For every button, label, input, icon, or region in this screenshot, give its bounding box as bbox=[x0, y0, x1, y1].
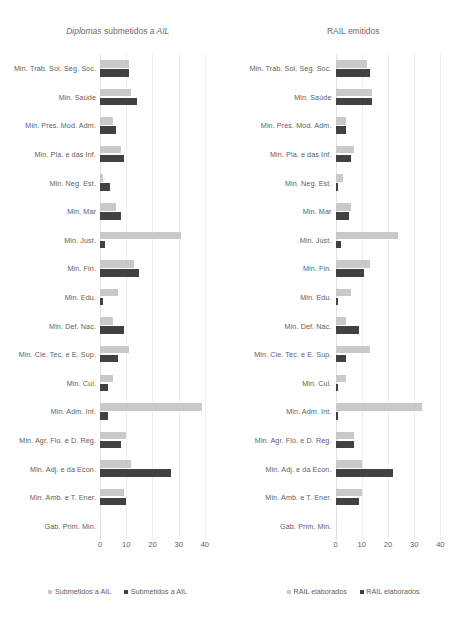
bar-light[interactable] bbox=[100, 375, 113, 383]
bar-light[interactable] bbox=[336, 518, 337, 526]
category-label: Min. Edu. bbox=[300, 293, 331, 302]
bar-light[interactable] bbox=[336, 232, 399, 240]
bar-dark[interactable] bbox=[336, 412, 339, 420]
legend-item[interactable]: Submetidos a AIL bbox=[48, 587, 111, 596]
bar-dark[interactable] bbox=[336, 126, 346, 134]
bar-dark[interactable] bbox=[336, 69, 370, 77]
bar-light[interactable] bbox=[100, 289, 118, 297]
bar-dark[interactable] bbox=[100, 355, 118, 363]
bar-dark[interactable] bbox=[100, 183, 110, 191]
bar-light[interactable] bbox=[336, 375, 346, 383]
bar-row: Min. Adj. e da Econ. bbox=[236, 454, 471, 483]
bar-dark[interactable] bbox=[100, 98, 137, 106]
x-tick-30: 30 bbox=[410, 540, 418, 549]
bar-light[interactable] bbox=[100, 146, 121, 154]
bar-light[interactable] bbox=[100, 346, 129, 354]
bar-light[interactable] bbox=[336, 174, 344, 182]
bar-dark[interactable] bbox=[336, 298, 339, 306]
legend-item[interactable]: RAIL elaborados bbox=[287, 587, 347, 596]
bar-row: Min. Fin. bbox=[0, 254, 236, 283]
bar-light[interactable] bbox=[100, 317, 113, 325]
bar-dark[interactable] bbox=[336, 355, 346, 363]
legend-item[interactable]: RAIL elaborados bbox=[360, 587, 420, 596]
bar-dark[interactable] bbox=[336, 384, 339, 392]
bar-light[interactable] bbox=[100, 89, 131, 97]
plot-area-right: Min. Trab. Sol. Seg. Soc.Min. SaúdeMin. … bbox=[236, 54, 471, 540]
bar-dark[interactable] bbox=[100, 498, 126, 506]
category-label: Min. Pres. Mod. Adm. bbox=[261, 121, 332, 130]
bar-light[interactable] bbox=[100, 432, 126, 440]
bar-dark[interactable] bbox=[100, 126, 116, 134]
bar-row: Min. Adm. Int. bbox=[236, 397, 471, 426]
bar-light[interactable] bbox=[336, 317, 346, 325]
category-label: Min. Pla. e das Inf. bbox=[270, 150, 332, 159]
bar-dark[interactable] bbox=[100, 298, 103, 306]
bar-dark[interactable] bbox=[100, 212, 121, 220]
bar-group bbox=[100, 197, 121, 226]
bar-group bbox=[100, 311, 124, 340]
legend-item[interactable]: Submetidos a AIL bbox=[124, 587, 187, 596]
bar-light[interactable] bbox=[336, 403, 423, 411]
bar-light[interactable] bbox=[336, 460, 362, 468]
bar-light[interactable] bbox=[100, 518, 101, 526]
bar-light[interactable] bbox=[336, 346, 370, 354]
bar-light[interactable] bbox=[336, 203, 352, 211]
bar-light[interactable] bbox=[336, 117, 346, 125]
bar-row: Min. Fin. bbox=[236, 254, 471, 283]
bar-light[interactable] bbox=[336, 89, 373, 97]
legend-right: RAIL elaboradosRAIL elaborados bbox=[236, 587, 471, 596]
bar-light[interactable] bbox=[100, 203, 116, 211]
bar-dark[interactable] bbox=[100, 469, 171, 477]
bar-dark[interactable] bbox=[336, 212, 349, 220]
bar-dark[interactable] bbox=[336, 469, 394, 477]
bar-dark[interactable] bbox=[100, 155, 124, 163]
bar-light[interactable] bbox=[100, 489, 124, 497]
legend-swatch-dark bbox=[360, 590, 364, 594]
bar-dark[interactable] bbox=[336, 498, 360, 506]
bar-group bbox=[336, 311, 360, 340]
bar-light[interactable] bbox=[100, 60, 129, 68]
bar-dark[interactable] bbox=[336, 527, 337, 535]
bar-light[interactable] bbox=[100, 260, 134, 268]
bar-dark[interactable] bbox=[336, 183, 339, 191]
bar-dark[interactable] bbox=[336, 441, 354, 449]
bar-dark[interactable] bbox=[100, 527, 101, 535]
bar-light[interactable] bbox=[336, 146, 354, 154]
x-tick-40: 40 bbox=[201, 540, 209, 549]
bar-light[interactable] bbox=[336, 489, 362, 497]
bar-group bbox=[336, 54, 370, 83]
bar-row: Min. Cie. Tec. e E. Sup. bbox=[0, 340, 236, 369]
bar-light[interactable] bbox=[336, 432, 354, 440]
bar-light[interactable] bbox=[100, 403, 202, 411]
bar-dark[interactable] bbox=[100, 412, 108, 420]
bar-group bbox=[336, 254, 370, 283]
bar-group bbox=[100, 226, 181, 255]
bar-light[interactable] bbox=[336, 60, 367, 68]
bar-dark[interactable] bbox=[336, 98, 373, 106]
bar-dark[interactable] bbox=[100, 69, 129, 77]
bar-dark[interactable] bbox=[336, 241, 341, 249]
bar-dark[interactable] bbox=[100, 269, 139, 277]
bar-row: Gab. Prim. Min. bbox=[236, 512, 471, 541]
bar-group bbox=[100, 140, 124, 169]
bar-light[interactable] bbox=[100, 117, 113, 125]
bar-dark[interactable] bbox=[100, 384, 108, 392]
category-label: Min. Cie. Tec. e E. Sup. bbox=[19, 350, 96, 359]
bar-light[interactable] bbox=[336, 289, 352, 297]
bar-dark[interactable] bbox=[100, 241, 105, 249]
bar-light[interactable] bbox=[100, 232, 181, 240]
bar-group bbox=[100, 254, 139, 283]
bar-dark[interactable] bbox=[336, 269, 365, 277]
category-label: Min. Def. Nac. bbox=[49, 321, 96, 330]
bar-dark[interactable] bbox=[100, 326, 124, 334]
bar-dark[interactable] bbox=[336, 326, 360, 334]
bar-dark[interactable] bbox=[336, 155, 352, 163]
legend-swatch-light bbox=[48, 590, 52, 594]
bar-group bbox=[336, 369, 346, 398]
bar-dark[interactable] bbox=[100, 441, 121, 449]
bar-light[interactable] bbox=[100, 174, 103, 182]
bar-row: Min. Amb. e T. Ener. bbox=[0, 483, 236, 512]
bar-light[interactable] bbox=[336, 260, 370, 268]
category-label: Min. Cul. bbox=[67, 378, 96, 387]
bar-light[interactable] bbox=[100, 460, 131, 468]
